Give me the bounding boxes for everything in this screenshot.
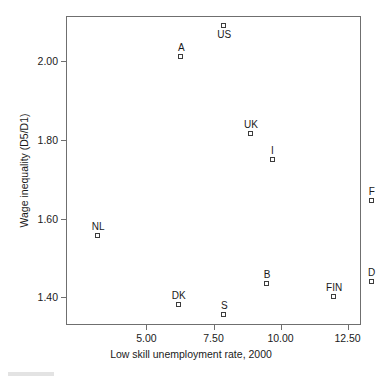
data-point-label: FIN bbox=[326, 283, 342, 293]
y-axis-title: Wage inequality (D5/D1) bbox=[16, 16, 32, 325]
data-point-label: F bbox=[369, 187, 375, 197]
y-axis-tick-label: 1.40 bbox=[38, 291, 58, 303]
data-point-marker[interactable] bbox=[176, 302, 181, 307]
x-axis-tick-label: 10.00 bbox=[267, 332, 293, 344]
x-axis-title: Low skill unemployment rate, 2000 bbox=[0, 348, 382, 361]
y-axis-tick-label: 2.00 bbox=[38, 55, 58, 67]
data-point-marker[interactable] bbox=[369, 279, 374, 284]
data-point-label: US bbox=[217, 30, 231, 40]
data-point-label: B bbox=[264, 270, 271, 280]
y-axis-tick-label: 1.80 bbox=[38, 134, 58, 146]
x-axis-tick-label: 7.50 bbox=[203, 332, 223, 344]
data-point-label: A bbox=[178, 43, 185, 53]
x-axis-tick bbox=[281, 325, 282, 330]
data-point-label: I bbox=[271, 146, 274, 156]
data-point-marker[interactable] bbox=[178, 54, 183, 59]
x-axis-tick-label: 5.00 bbox=[136, 332, 156, 344]
data-point-marker[interactable] bbox=[221, 23, 226, 28]
data-point-marker[interactable] bbox=[369, 198, 374, 203]
x-axis-tick bbox=[348, 325, 349, 330]
data-point-label: DK bbox=[172, 291, 186, 301]
x-axis-tick bbox=[214, 325, 215, 330]
data-point-marker[interactable] bbox=[95, 233, 100, 238]
data-point-marker[interactable] bbox=[248, 131, 253, 136]
data-point-label: S bbox=[221, 301, 228, 311]
data-point-marker[interactable] bbox=[270, 157, 275, 162]
data-points-layer: USAUKIFNLDBFINDKS bbox=[66, 16, 361, 325]
data-point-marker[interactable] bbox=[221, 312, 226, 317]
scatter-chart-figure: 5.007.5010.0012.502.001.801.601.40 USAUK… bbox=[0, 0, 382, 383]
scan-artifact bbox=[8, 372, 54, 376]
y-axis-tick-label: 1.60 bbox=[38, 213, 58, 225]
data-point-label: UK bbox=[244, 120, 258, 130]
data-point-label: D bbox=[368, 268, 375, 278]
data-point-marker[interactable] bbox=[264, 281, 269, 286]
data-point-marker[interactable] bbox=[331, 294, 336, 299]
x-axis-tick bbox=[146, 325, 147, 330]
data-point-label: NL bbox=[92, 222, 105, 232]
x-axis-tick-label: 12.50 bbox=[334, 332, 360, 344]
